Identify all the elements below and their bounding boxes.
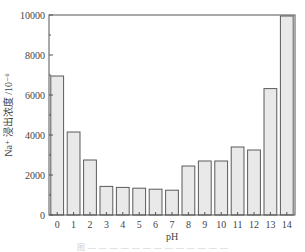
x-tick-label: 0 (55, 219, 60, 230)
y-tick-label: 8000 (25, 50, 45, 61)
bar-ph-0 (51, 76, 64, 215)
y-tick-label: 6000 (25, 90, 45, 101)
bar-ph-8 (182, 166, 195, 215)
x-tick-label: 8 (186, 219, 191, 230)
bar-ph-5 (133, 188, 146, 215)
bar-ph-3 (100, 186, 113, 215)
bar-chart: 0200040006000800010000 01234567891011121… (0, 0, 305, 252)
bar-ph-2 (84, 160, 97, 215)
bars-group (51, 16, 293, 215)
x-tick-label: 12 (249, 219, 259, 230)
bar-ph-4 (116, 187, 129, 215)
x-tick-label: 11 (233, 219, 243, 230)
bar-ph-10 (215, 161, 228, 215)
figure-caption: 图 — — — — — — — — — — — — — (0, 241, 305, 252)
bar-ph-1 (67, 132, 80, 215)
y-axis: 0200040006000800010000 (20, 10, 53, 221)
bar-ph-14 (280, 16, 293, 215)
bar-ph-6 (149, 189, 162, 215)
x-tick-label: 10 (216, 219, 226, 230)
x-tick-label: 6 (153, 219, 158, 230)
bar-ph-12 (248, 150, 261, 215)
bar-ph-13 (264, 89, 277, 215)
x-tick-label: 14 (282, 219, 292, 230)
x-tick-label: 9 (202, 219, 207, 230)
y-axis-title: Na⁺ 浸出浓度 /10⁻⁶ (2, 73, 14, 157)
y-tick-label: 4000 (25, 130, 45, 141)
x-tick-label: 13 (265, 219, 275, 230)
x-tick-label: 1 (71, 219, 76, 230)
bar-ph-7 (166, 190, 179, 215)
x-tick-label: 5 (137, 219, 142, 230)
x-tick-label: 4 (120, 219, 125, 230)
x-tick-label: 3 (104, 219, 109, 230)
y-tick-label: 10000 (20, 10, 45, 21)
x-tick-label: 2 (88, 219, 93, 230)
x-tick-label: 7 (170, 219, 175, 230)
y-tick-label: 2000 (25, 170, 45, 181)
bar-ph-11 (231, 147, 244, 215)
y-tick-label: 0 (40, 210, 45, 221)
bar-ph-9 (198, 161, 211, 215)
